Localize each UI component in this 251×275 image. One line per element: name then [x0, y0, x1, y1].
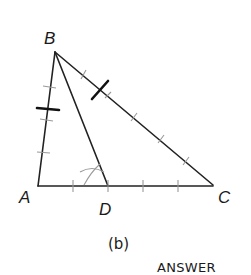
vertex-label-a: A [18, 188, 30, 207]
segment-bd-bisector [55, 52, 108, 186]
segment-bc [55, 52, 213, 185]
bold-mark-bc [92, 81, 108, 99]
ticks-ab [37, 86, 56, 153]
figure-caption: (b) [108, 235, 129, 253]
bold-mark-ab [37, 108, 59, 110]
vertex-label-b: B [44, 29, 55, 48]
vertex-label-d: D [99, 200, 111, 219]
answer-label: ANSWER [157, 260, 216, 275]
triangle-bisector-diagram: B A D C (b) ANSWER [0, 0, 251, 275]
vertex-label-c: C [218, 188, 231, 207]
